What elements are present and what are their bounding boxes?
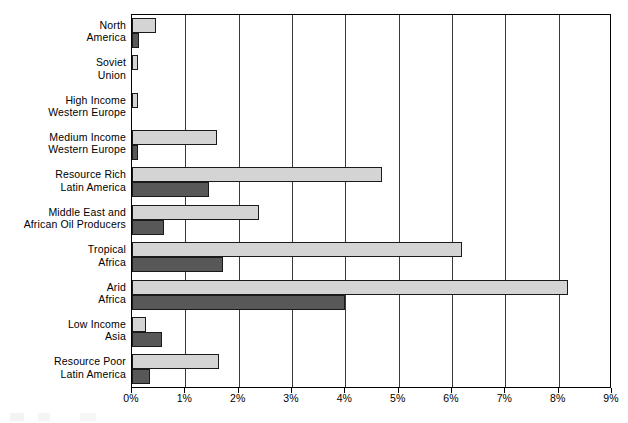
y-axis-label-line: High Income: [0, 94, 126, 107]
x-axis-tick-label-5: 5%: [378, 392, 418, 405]
x-axis-tick-label-7: 7%: [484, 392, 524, 405]
plot-area: [131, 14, 611, 388]
bar-dark-series-3: [132, 145, 138, 160]
y-axis-label-line: Latin America: [0, 368, 126, 381]
bar-light-series-0: [132, 18, 156, 33]
bar-light-series-5: [132, 205, 259, 220]
y-axis-label-8: Low IncomeAsia: [0, 318, 126, 343]
gridline: [185, 15, 186, 387]
y-axis-label-line: Western Europe: [0, 106, 126, 119]
y-axis-label-line: African Oil Producers: [0, 218, 126, 231]
y-axis-label-line: Resource Poor: [0, 355, 126, 368]
x-axis-tick-label-2: 2%: [218, 392, 258, 405]
bar-light-series-3: [132, 130, 217, 145]
y-axis-label-4: Resource RichLatin America: [0, 168, 126, 193]
y-axis-label-line: Asia: [0, 330, 126, 343]
gridline: [452, 15, 453, 387]
bar-light-series-4: [132, 167, 382, 182]
y-axis-label-line: North: [0, 19, 126, 32]
bar-dark-series-6: [132, 257, 223, 272]
bar-light-series-1: [132, 55, 138, 70]
y-axis-label-line: Latin America: [0, 181, 126, 194]
x-axis-tick-label-9: 9%: [591, 392, 628, 405]
bar-light-series-9: [132, 354, 219, 369]
y-axis-label-line: Arid: [0, 281, 126, 294]
bar-light-series-2: [132, 93, 138, 108]
bar-dark-series-4: [132, 182, 209, 197]
gridline: [559, 15, 560, 387]
x-axis-tick-label-1: 1%: [164, 392, 204, 405]
y-axis-label-line: Tropical: [0, 243, 126, 256]
x-axis-tick-label-6: 6%: [431, 392, 471, 405]
gridline: [399, 15, 400, 387]
gridline: [505, 15, 506, 387]
scan-artifact: [10, 413, 130, 421]
y-axis-label-line: Union: [0, 69, 126, 82]
bar-light-series-7: [132, 280, 568, 295]
bar-light-series-8: [132, 317, 146, 332]
y-axis-label-line: Medium Income: [0, 131, 126, 144]
gridline: [345, 15, 346, 387]
y-axis-label-line: Africa: [0, 256, 126, 269]
bar-dark-series-5: [132, 220, 164, 235]
y-axis-label-7: AridAfrica: [0, 281, 126, 306]
bar-dark-series-9: [132, 369, 150, 384]
y-axis-label-3: Medium IncomeWestern Europe: [0, 131, 126, 156]
y-axis-label-9: Resource PoorLatin America: [0, 355, 126, 380]
y-axis-label-1: SovietUnion: [0, 56, 126, 81]
y-axis-label-line: Africa: [0, 293, 126, 306]
y-axis-label-line: Resource Rich: [0, 168, 126, 181]
bar-dark-series-7: [132, 295, 345, 310]
x-axis-tick-label-8: 8%: [538, 392, 578, 405]
y-axis-label-0: NorthAmerica: [0, 19, 126, 44]
x-axis-tick-label-4: 4%: [324, 392, 364, 405]
y-axis-label-line: America: [0, 31, 126, 44]
x-axis-tick-label-0: 0%: [111, 392, 151, 405]
bar-light-series-6: [132, 242, 462, 257]
bar-chart: NorthAmericaSovietUnionHigh IncomeWester…: [0, 0, 628, 423]
y-axis-label-2: High IncomeWestern Europe: [0, 94, 126, 119]
gridline: [239, 15, 240, 387]
gridline: [292, 15, 293, 387]
y-axis-label-line: Middle East and: [0, 206, 126, 219]
y-axis-label-line: Western Europe: [0, 143, 126, 156]
x-axis-tick-label-3: 3%: [271, 392, 311, 405]
bar-dark-series-0: [132, 33, 139, 48]
y-axis-label-line: Soviet: [0, 56, 126, 69]
y-axis-label-6: TropicalAfrica: [0, 243, 126, 268]
bar-dark-series-8: [132, 332, 162, 347]
y-axis-label-line: Low Income: [0, 318, 126, 331]
y-axis-label-5: Middle East andAfrican Oil Producers: [0, 206, 126, 231]
